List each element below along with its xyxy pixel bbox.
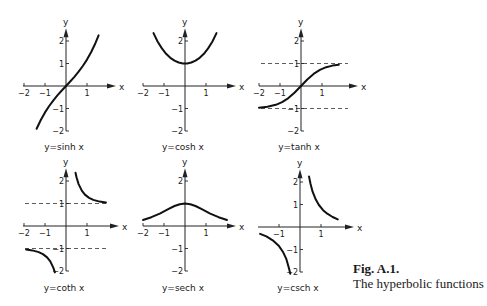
x-tick-label: −1 <box>39 229 51 238</box>
plot-y-cosh-x: xy−2−11−2−12y=cosh x <box>137 17 245 152</box>
x-tick-label: −1 <box>158 89 170 98</box>
y-tick-label: 1 <box>294 60 299 69</box>
y-tick-label: −1 <box>52 245 64 254</box>
plot-y-coth-x: xy−2−11−2−112y=coth x <box>18 157 128 293</box>
y-axis-arrow-icon <box>299 28 304 37</box>
x-tick-label: −2 <box>253 89 265 98</box>
x-tick-label: −1 <box>273 230 285 239</box>
x-tick-label: 1 <box>84 89 89 98</box>
y-axis-arrow-icon <box>64 28 69 37</box>
y-tick-label: 1 <box>59 200 64 209</box>
x-tick-label: −1 <box>39 89 51 98</box>
y-tick-label: −2 <box>287 127 299 136</box>
plot-caption: y=cosh x <box>162 142 205 152</box>
y-axis-arrow-icon <box>183 168 188 177</box>
x-tick-label: −2 <box>18 89 30 98</box>
y-tick-label: −1 <box>171 245 183 254</box>
x-axis-label: x <box>239 222 245 232</box>
x-tick-label: −1 <box>274 89 286 98</box>
figure-caption: Fig. A.1. The hyperbolic functions <box>353 261 484 292</box>
y-tick-label: −2 <box>286 268 298 277</box>
plot-y-tanh-x: xy−2−11−2−112y=tanh x <box>253 17 367 152</box>
plot-caption: y=csch x <box>277 283 319 293</box>
y-tick-label: −2 <box>171 267 183 276</box>
x-tick-label: 1 <box>318 230 323 239</box>
y-tick-label: −1 <box>286 246 298 255</box>
plot-caption: y=tanh x <box>278 142 320 152</box>
y-tick-label: −1 <box>52 105 64 114</box>
x-axis-arrow-icon <box>107 84 116 89</box>
curve-sinh <box>37 35 99 128</box>
y-tick-label: −1 <box>171 105 183 114</box>
x-axis-arrow-icon <box>227 224 236 229</box>
y-tick-label: 2 <box>59 177 64 186</box>
y-tick-label: −1 <box>287 105 299 114</box>
x-tick-label: −2 <box>18 229 30 238</box>
plot-y-sech-x: xy−2−11−2−12y=sech x <box>137 157 245 293</box>
x-axis-arrow-icon <box>349 84 358 89</box>
y-tick-label: −2 <box>171 127 183 136</box>
y-axis-label: y <box>297 158 303 168</box>
x-axis-arrow-icon <box>110 224 119 229</box>
y-tick-label: −2 <box>52 127 64 136</box>
figure-label: Fig. A.1. <box>353 261 484 276</box>
y-tick-label: 2 <box>294 37 299 46</box>
x-tick-label: 1 <box>319 89 324 98</box>
y-axis-arrow-icon <box>298 169 303 178</box>
x-tick-label: 1 <box>203 229 208 238</box>
y-tick-label: 1 <box>59 60 64 69</box>
y-tick-label: 2 <box>178 177 183 186</box>
plot-caption: y=sinh x <box>44 142 84 152</box>
x-axis-label: x <box>357 223 363 233</box>
plot-caption: y=coth x <box>44 283 85 293</box>
figure-caption-text: The hyperbolic functions <box>353 276 484 292</box>
y-tick-label: 2 <box>293 178 298 187</box>
plot-y-csch-x: xy−11−2−112y=csch x <box>258 158 363 293</box>
y-axis-label: y <box>63 157 69 167</box>
plot-y-sinh-x: xy−2−11−2−112y=sinh x <box>18 17 125 152</box>
x-axis-label: x <box>361 82 367 92</box>
y-tick-label: 2 <box>59 37 64 46</box>
x-tick-label: −2 <box>137 229 149 238</box>
x-axis-arrow-icon <box>345 225 354 230</box>
x-tick-label: 1 <box>203 89 208 98</box>
y-axis-arrow-icon <box>64 168 69 177</box>
y-axis-label: y <box>298 17 304 27</box>
x-tick-label: −1 <box>158 229 170 238</box>
y-axis-label: y <box>182 17 188 27</box>
curve-coth-pos <box>76 173 106 203</box>
x-axis-arrow-icon <box>227 84 236 89</box>
y-axis-label: y <box>63 17 69 27</box>
x-axis-label: x <box>122 222 128 232</box>
curve-csch-pos <box>309 176 338 219</box>
x-tick-label: −2 <box>137 89 149 98</box>
x-axis-label: x <box>119 82 125 92</box>
y-axis-label: y <box>182 157 188 167</box>
x-tick-label: 1 <box>84 229 89 238</box>
x-axis-label: x <box>239 82 245 92</box>
curve-coth-neg <box>26 250 55 273</box>
plot-caption: y=sech x <box>162 283 205 293</box>
y-axis-arrow-icon <box>183 28 188 37</box>
y-tick-label: 2 <box>178 37 183 46</box>
y-tick-label: 1 <box>293 201 298 210</box>
